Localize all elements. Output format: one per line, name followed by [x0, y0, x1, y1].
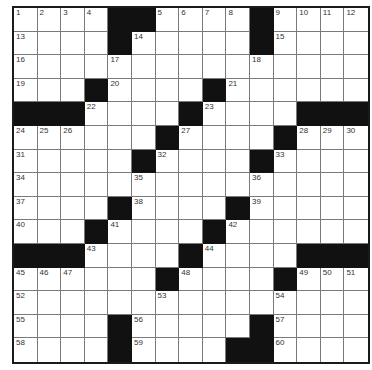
grid-cell[interactable]	[321, 79, 345, 103]
grid-cell[interactable]: 18	[250, 55, 274, 79]
grid-cell[interactable]	[132, 79, 156, 103]
grid-cell[interactable]: 44	[203, 244, 227, 268]
grid-cell[interactable]	[179, 315, 203, 339]
grid-cell[interactable]	[226, 126, 250, 150]
grid-cell[interactable]: 47	[61, 268, 85, 292]
grid-cell[interactable]	[179, 291, 203, 315]
grid-cell[interactable]	[38, 291, 62, 315]
grid-cell[interactable]: 57	[274, 315, 298, 339]
grid-cell[interactable]: 39	[250, 197, 274, 221]
grid-cell[interactable]	[132, 126, 156, 150]
grid-cell[interactable]: 22	[85, 102, 109, 126]
grid-cell[interactable]	[226, 315, 250, 339]
grid-cell[interactable]: 59	[132, 338, 156, 362]
grid-cell[interactable]	[203, 150, 227, 174]
grid-cell[interactable]	[344, 197, 368, 221]
grid-cell[interactable]	[156, 102, 180, 126]
grid-cell[interactable]: 55	[14, 315, 38, 339]
grid-cell[interactable]	[203, 173, 227, 197]
grid-cell[interactable]	[321, 150, 345, 174]
grid-cell[interactable]: 27	[179, 126, 203, 150]
grid-cell[interactable]	[321, 32, 345, 56]
grid-cell[interactable]	[250, 220, 274, 244]
grid-cell[interactable]	[297, 79, 321, 103]
grid-cell[interactable]	[226, 102, 250, 126]
grid-cell[interactable]	[321, 197, 345, 221]
grid-cell[interactable]: 11	[321, 8, 345, 32]
grid-cell[interactable]: 36	[250, 173, 274, 197]
grid-cell[interactable]	[179, 55, 203, 79]
grid-cell[interactable]: 4	[85, 8, 109, 32]
grid-cell[interactable]	[226, 32, 250, 56]
grid-cell[interactable]	[85, 126, 109, 150]
grid-cell[interactable]: 7	[203, 8, 227, 32]
grid-cell[interactable]: 2	[38, 8, 62, 32]
grid-cell[interactable]	[344, 55, 368, 79]
grid-cell[interactable]	[203, 197, 227, 221]
grid-cell[interactable]	[156, 244, 180, 268]
grid-cell[interactable]	[156, 32, 180, 56]
grid-cell[interactable]	[344, 220, 368, 244]
grid-cell[interactable]: 30	[344, 126, 368, 150]
grid-cell[interactable]	[61, 32, 85, 56]
grid-cell[interactable]	[250, 268, 274, 292]
grid-cell[interactable]: 35	[132, 173, 156, 197]
grid-cell[interactable]	[321, 291, 345, 315]
grid-cell[interactable]	[38, 173, 62, 197]
grid-cell[interactable]: 58	[14, 338, 38, 362]
grid-cell[interactable]	[179, 197, 203, 221]
grid-cell[interactable]	[321, 338, 345, 362]
grid-cell[interactable]	[344, 79, 368, 103]
grid-cell[interactable]	[274, 220, 298, 244]
grid-cell[interactable]	[226, 291, 250, 315]
grid-cell[interactable]: 19	[14, 79, 38, 103]
grid-cell[interactable]	[226, 244, 250, 268]
grid-cell[interactable]	[61, 197, 85, 221]
grid-cell[interactable]	[203, 338, 227, 362]
grid-cell[interactable]	[344, 173, 368, 197]
grid-cell[interactable]	[226, 173, 250, 197]
grid-cell[interactable]: 10	[297, 8, 321, 32]
grid-cell[interactable]: 34	[14, 173, 38, 197]
grid-cell[interactable]	[85, 338, 109, 362]
grid-cell[interactable]	[156, 79, 180, 103]
grid-cell[interactable]	[321, 220, 345, 244]
grid-cell[interactable]	[203, 32, 227, 56]
grid-cell[interactable]	[250, 79, 274, 103]
grid-cell[interactable]	[132, 268, 156, 292]
grid-cell[interactable]	[250, 244, 274, 268]
grid-cell[interactable]	[203, 126, 227, 150]
grid-cell[interactable]: 40	[14, 220, 38, 244]
grid-cell[interactable]	[132, 291, 156, 315]
grid-cell[interactable]	[38, 197, 62, 221]
grid-cell[interactable]	[203, 291, 227, 315]
grid-cell[interactable]	[108, 150, 132, 174]
grid-cell[interactable]	[274, 244, 298, 268]
grid-cell[interactable]	[297, 55, 321, 79]
grid-cell[interactable]: 6	[179, 8, 203, 32]
grid-cell[interactable]	[132, 102, 156, 126]
grid-cell[interactable]	[297, 32, 321, 56]
grid-cell[interactable]	[344, 150, 368, 174]
grid-cell[interactable]	[203, 268, 227, 292]
grid-cell[interactable]	[250, 102, 274, 126]
grid-cell[interactable]: 9	[274, 8, 298, 32]
grid-cell[interactable]	[226, 55, 250, 79]
grid-cell[interactable]	[61, 220, 85, 244]
grid-cell[interactable]	[38, 150, 62, 174]
grid-cell[interactable]: 25	[38, 126, 62, 150]
grid-cell[interactable]	[179, 220, 203, 244]
grid-cell[interactable]	[38, 79, 62, 103]
grid-cell[interactable]: 1	[14, 8, 38, 32]
grid-cell[interactable]	[38, 55, 62, 79]
grid-cell[interactable]	[321, 55, 345, 79]
grid-cell[interactable]	[85, 291, 109, 315]
grid-cell[interactable]	[61, 291, 85, 315]
grid-cell[interactable]: 20	[108, 79, 132, 103]
grid-cell[interactable]: 33	[274, 150, 298, 174]
grid-cell[interactable]	[85, 55, 109, 79]
grid-cell[interactable]	[297, 338, 321, 362]
grid-cell[interactable]: 41	[108, 220, 132, 244]
grid-cell[interactable]: 12	[344, 8, 368, 32]
grid-cell[interactable]	[344, 338, 368, 362]
